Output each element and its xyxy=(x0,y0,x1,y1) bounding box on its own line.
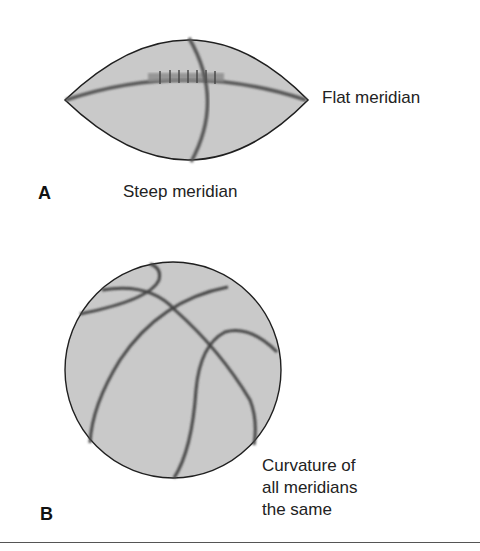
football-illustration xyxy=(65,38,308,162)
basketball-illustration xyxy=(65,262,281,478)
panel-a-letter: A xyxy=(38,183,51,204)
diagram-artwork xyxy=(0,0,480,551)
steep-meridian-label: Steep meridian xyxy=(123,182,237,202)
caption-line-2: all meridians xyxy=(262,478,357,498)
bottom-divider xyxy=(0,542,480,543)
flat-meridian-label: Flat meridian xyxy=(322,88,420,108)
meridian-diagram: Flat meridian A Steep meridian Curvature… xyxy=(0,0,480,551)
panel-b-letter: B xyxy=(40,504,53,525)
caption-line-1: Curvature of xyxy=(262,456,356,476)
caption-line-3: the same xyxy=(262,500,332,520)
